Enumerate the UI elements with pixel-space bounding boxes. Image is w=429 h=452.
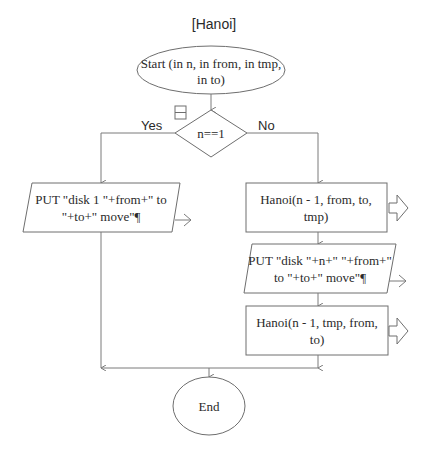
call2-rect (246, 306, 388, 355)
output-arrow-icon (175, 214, 191, 226)
call1-rect (246, 183, 387, 232)
start-label-line1: Start (in n, in from, in tmp, (141, 56, 281, 71)
no-output-line1: PUT "disk "+n+" "+from+" (248, 253, 391, 268)
no-output-node[interactable]: PUT "disk "+n+" "+from+" to "+to+" move"… (244, 244, 396, 293)
collapse-box-icon[interactable] (175, 106, 186, 119)
no-label: No (258, 118, 275, 133)
output-arrow-icon (389, 275, 406, 287)
yes-output-line1: PUT "disk 1 "+from+" to (35, 192, 166, 207)
call1-line1: Hanoi(n - 1, from, to, (260, 192, 372, 207)
yes-output-node[interactable]: PUT "disk 1 "+from+" to "+to+" move"¶ (23, 183, 180, 232)
call2-node[interactable]: Hanoi(n - 1, tmp, from, to) (246, 306, 388, 355)
connector-no (247, 133, 318, 183)
no-output-line2: to "+to+" move"¶ (274, 270, 366, 285)
start-terminal[interactable]: Start (in n, in from, in tmp, in to) (137, 46, 285, 94)
diagram-title: [Hanoi] (192, 16, 236, 32)
yes-output-line2: "+to+" move"¶ (62, 209, 141, 224)
decision-condition: n==1 (197, 126, 225, 141)
call-hollow-arrow-icon (389, 195, 408, 221)
connector-yes (101, 133, 175, 183)
call2-line1: Hanoi(n - 1, tmp, from, (256, 315, 378, 330)
yes-output-parallelogram (23, 183, 180, 232)
no-output-parallelogram (244, 244, 396, 293)
call1-node[interactable]: Hanoi(n - 1, from, to, tmp) (246, 183, 387, 232)
call2-line2: to) (310, 332, 324, 347)
end-terminal[interactable]: End (173, 377, 245, 435)
flowchart-canvas: [Hanoi] Start (in n, in from, in tmp, in… (0, 0, 429, 452)
call-hollow-arrow-icon (389, 318, 408, 344)
start-label-line2: in to) (197, 72, 225, 87)
yes-label: Yes (141, 118, 163, 133)
call1-line2: tmp) (304, 209, 329, 224)
end-label: End (199, 399, 220, 414)
